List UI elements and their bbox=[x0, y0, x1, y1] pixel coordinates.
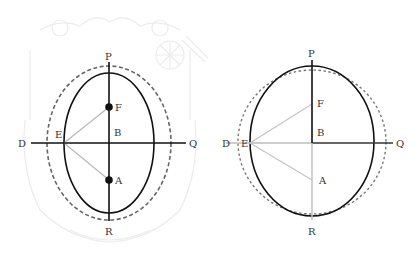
focal-line-EF bbox=[250, 104, 312, 143]
label-P: P bbox=[308, 48, 315, 59]
gear-wheel-icon bbox=[156, 41, 184, 69]
focus-point-A bbox=[105, 176, 113, 184]
label-Q: Q bbox=[396, 138, 404, 149]
label-F: F bbox=[115, 102, 122, 113]
focal-line-EA bbox=[250, 143, 312, 180]
right-diagram: P R D Q E B F A bbox=[222, 48, 404, 237]
focus-point-F bbox=[105, 103, 113, 111]
label-B: B bbox=[317, 127, 324, 138]
focal-line-EF bbox=[64, 107, 109, 143]
focal-line-EA bbox=[64, 143, 109, 180]
ellipse-diagram-figure: P R D Q E B F A P R D Q E B F A bbox=[0, 0, 420, 256]
left-diagram: P R D Q E B F A bbox=[18, 51, 197, 237]
label-R: R bbox=[105, 226, 113, 237]
label-F: F bbox=[317, 98, 324, 109]
label-E: E bbox=[55, 129, 62, 140]
label-A: A bbox=[318, 175, 327, 186]
label-A: A bbox=[114, 175, 123, 186]
label-D: D bbox=[18, 138, 26, 149]
label-R: R bbox=[308, 226, 316, 237]
label-Q: Q bbox=[189, 138, 197, 149]
label-P: P bbox=[105, 51, 112, 62]
label-D: D bbox=[222, 138, 230, 149]
label-E: E bbox=[241, 138, 248, 149]
label-B: B bbox=[114, 127, 121, 138]
